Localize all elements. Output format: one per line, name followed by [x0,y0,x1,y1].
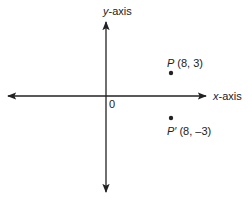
y-axis-label: y-axis [102,5,132,17]
x-axis-label: x-axis [212,90,242,102]
point-p-prime-mark: ′ [174,125,177,137]
point-p-dot [169,71,173,75]
y-axis-label-suffix: -axis [109,5,133,17]
coordinate-plane: y-axis x-axis 0 P(8, 3) P′(8, –3) [0,0,248,204]
origin-label: 0 [109,98,115,110]
point-p-coords: (8, 3) [177,57,203,69]
point-p-label: P(8, 3) [167,57,203,69]
x-axis-label-suffix: -axis [219,90,243,102]
point-p-prime-dot [169,116,173,120]
point-p-prime-coords: (8, –3) [179,125,211,137]
point-p-name: P [167,57,175,69]
point-p-prime-label: P′(8, –3) [167,125,211,137]
